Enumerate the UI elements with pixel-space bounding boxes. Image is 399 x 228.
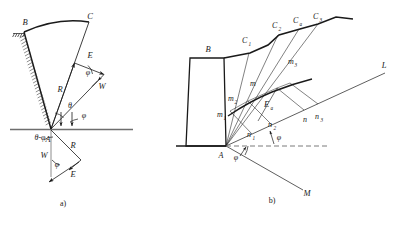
label-c3: C 3 xyxy=(313,12,323,23)
support-hatching-b xyxy=(13,34,25,38)
label-n3-base: n xyxy=(315,112,319,121)
label-m: m xyxy=(250,79,256,88)
label-n2: n 2 xyxy=(268,120,277,131)
force-arrow-w-upper xyxy=(92,81,98,87)
segment-n3-m3 xyxy=(290,83,318,104)
caption-panel-a: a) xyxy=(60,199,67,208)
label-force-r-upper: R xyxy=(56,84,63,94)
ground-surface-bc xyxy=(24,21,89,32)
label-point-c-a: C xyxy=(87,11,93,21)
label-c2: C 2 xyxy=(272,21,282,32)
label-ca: C a xyxy=(293,16,303,27)
engineering-figure-svg: B C A R E W θ φ φ θ-φ R W E φ a) xyxy=(0,0,399,228)
label-force-w-lower: W xyxy=(40,150,48,160)
label-n1-sub: 1 xyxy=(253,135,256,141)
label-angle-theta-a: θ xyxy=(68,101,72,110)
label-m1-base: m xyxy=(217,110,223,119)
label-ea-base: E xyxy=(263,99,270,109)
label-line-l: L xyxy=(381,60,387,70)
label-c3-sub: 3 xyxy=(320,17,323,23)
label-c2-base: C xyxy=(272,21,278,30)
label-m2: m 2 xyxy=(228,94,238,105)
label-n-base: n xyxy=(303,115,307,124)
label-angle-phi-lower: φ xyxy=(55,160,60,169)
force-vector-r-upper xyxy=(51,63,75,129)
figure-root: B C A R E W θ φ φ θ-φ R W E φ a) xyxy=(0,0,399,228)
label-c1: C 1 xyxy=(242,36,252,47)
label-point-b-b: B xyxy=(205,44,210,54)
label-n1-base: n xyxy=(247,130,251,139)
label-ea-sub: a xyxy=(271,105,274,111)
segment-n-m xyxy=(277,88,304,110)
panel-b: B A L M C 1 C 2 C a C 3 m 1 m 2 m xyxy=(0,0,387,205)
label-m3-base: m xyxy=(288,57,294,66)
label-n3-sub: 3 xyxy=(321,117,324,123)
label-m3-sub: 3 xyxy=(295,62,298,68)
force-vector-r-lower xyxy=(51,130,81,160)
label-m2-sub: 2 xyxy=(235,99,238,105)
label-angle-phi-a-b: φ xyxy=(234,153,239,162)
label-point-b-a: B xyxy=(22,17,27,27)
label-c3-base: C xyxy=(313,12,319,21)
angle-arrow-phi-n2 xyxy=(270,131,274,144)
label-m1-sub: 1 xyxy=(224,115,227,121)
label-n1: n 1 xyxy=(247,130,256,141)
label-force-w-upper: W xyxy=(98,81,106,91)
label-m3: m 3 xyxy=(288,57,298,68)
label-n: n xyxy=(303,115,307,124)
label-force-e-upper: E xyxy=(86,50,93,60)
trial-plane-aca xyxy=(226,29,299,146)
label-m-base: m xyxy=(250,79,256,88)
label-angle-phi-ground: φ xyxy=(82,111,87,120)
label-n2-sub: 2 xyxy=(274,125,277,131)
label-force-e-lower: E xyxy=(69,169,76,179)
retaining-wall-b xyxy=(186,58,226,146)
caption-panel-b: b) xyxy=(269,196,276,205)
panel-a: B C A R E W θ φ φ θ-φ R W E φ a) xyxy=(10,11,133,209)
label-ca-base: C xyxy=(293,16,299,25)
label-n3: n 3 xyxy=(315,112,324,123)
label-line-m: M xyxy=(302,188,311,198)
label-c1-sub: 1 xyxy=(249,41,252,47)
label-ca-sub: a xyxy=(300,21,303,27)
label-n2-base: n xyxy=(268,120,272,129)
label-angle-phi-triangle: φ xyxy=(86,68,91,77)
label-point-a-b: A xyxy=(218,151,224,160)
label-c2-sub: 2 xyxy=(279,26,282,32)
label-angle-phi-n2: φ xyxy=(277,133,282,142)
label-ea: E a xyxy=(263,99,274,111)
label-force-r-lower: R xyxy=(69,140,76,150)
label-c1-base: C xyxy=(242,36,248,45)
label-m2-base: m xyxy=(228,94,234,103)
label-angle-theta-minus-phi: θ-φ xyxy=(34,133,46,142)
angle-arc-phi-ground xyxy=(70,119,78,122)
